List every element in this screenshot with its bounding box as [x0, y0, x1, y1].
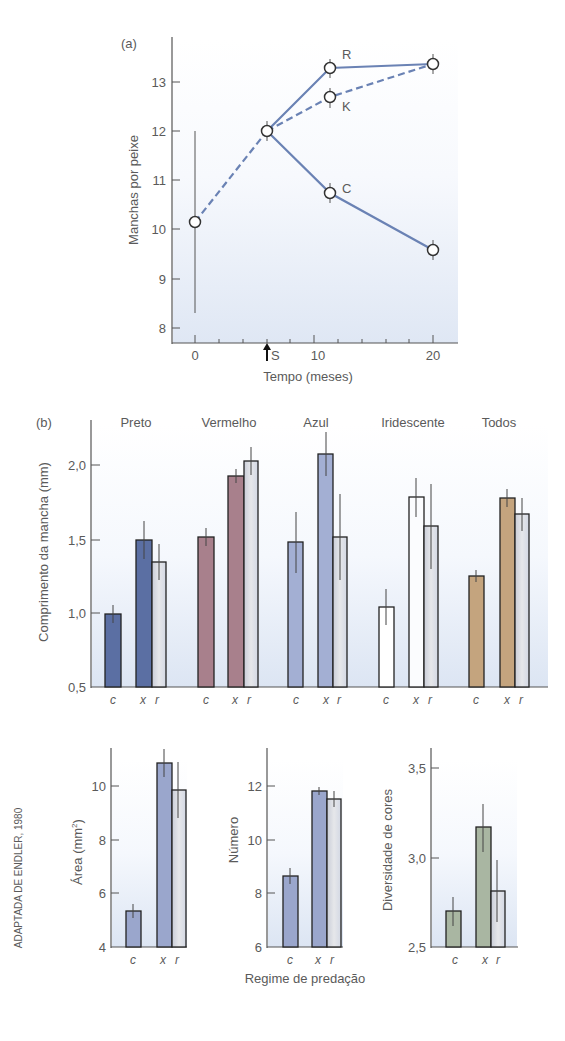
panel-a-xtick-0: 0 — [191, 348, 198, 363]
figure-canvas: (a) 13 12 11 10 9 8 — [0, 0, 565, 1041]
numero-ytick-8: 8 — [255, 886, 262, 901]
diversidade-ytick-3-5: 3,5 — [408, 761, 426, 776]
cat-label-c: c — [130, 953, 136, 967]
area-y-label: Área (mm2) — [70, 819, 85, 885]
selection-arrow-icon — [263, 343, 271, 361]
panel-a-ytick-11: 11 — [153, 173, 167, 188]
cat-label-x: x — [322, 693, 330, 707]
cat-label-x: x — [314, 953, 322, 967]
panel-a-line-chart: (a) 13 12 11 10 9 8 — [121, 36, 458, 384]
panel-a-ytick-13: 13 — [152, 75, 166, 90]
numero-bar-r — [327, 799, 341, 947]
group-header-todos: Todos — [482, 415, 517, 430]
cat-label-r: r — [155, 693, 160, 707]
cat-label-x: x — [412, 693, 420, 707]
cat-label-c: c — [452, 953, 458, 967]
area-ytick-10: 10 — [92, 779, 106, 794]
area-ytick-8: 8 — [99, 833, 106, 848]
cat-label-c: c — [203, 693, 209, 707]
panel-a-ytick-8: 8 — [159, 321, 166, 336]
area-bar-r — [172, 790, 186, 947]
group-header-preto: Preto — [120, 415, 151, 430]
cat-label-x: x — [231, 693, 239, 707]
source-credit: ADAPTADA DE ENDLER, 1980 — [13, 807, 24, 948]
group-header-vermelho: Vermelho — [202, 415, 257, 430]
area-bar-chart: 10 8 6 4 Área (mm2) c x r — [70, 748, 187, 967]
diversidade-bar-r — [491, 891, 505, 947]
panel-a-xtick-10: 10 — [311, 348, 325, 363]
diversidade-ytick-3-0: 3,0 — [408, 851, 426, 866]
panel-b-ytick-0-5: 0,5 — [68, 680, 86, 695]
cat-label-r: r — [175, 953, 180, 967]
numero-bar-c — [283, 876, 298, 947]
group-header-iridescente: Iridescente — [381, 415, 445, 430]
cat-label-r: r — [496, 953, 501, 967]
cat-label-x: x — [481, 953, 489, 967]
numero-ytick-12: 12 — [248, 779, 262, 794]
numero-ytick-10: 10 — [248, 833, 262, 848]
cat-label-c: c — [110, 693, 116, 707]
panel-b-y-label: Comprimento da mancha (mm) — [36, 462, 51, 642]
panel-a-ytick-10: 10 — [152, 222, 166, 237]
cat-label-r: r — [519, 693, 524, 707]
cat-label-c: c — [293, 693, 299, 707]
panel-b-bar-chart: (b) 2,0 1,5 1,0 0,5 Comprimento da manch… — [36, 415, 548, 707]
panel-b-ytick-1-5: 1,5 — [68, 533, 86, 548]
numero-bar-chart: 12 10 8 6 Número c x r Regime de predaçã… — [226, 748, 365, 986]
cat-label-c: c — [287, 953, 293, 967]
cat-label-x: x — [159, 953, 167, 967]
cat-label-r: r — [247, 693, 252, 707]
panel-a-s-label: S — [271, 348, 280, 363]
panel-b-ytick-2-0: 2,0 — [68, 458, 86, 473]
panel-b-label: (b) — [36, 415, 52, 430]
area-bar-x — [157, 763, 172, 947]
cat-label-r: r — [330, 953, 335, 967]
area-ytick-4: 4 — [99, 940, 106, 955]
bottom-x-label: Regime de predação — [245, 971, 366, 986]
series-label-K: K — [342, 99, 351, 114]
group-header-azul: Azul — [303, 415, 328, 430]
area-ytick-6: 6 — [99, 886, 106, 901]
panel-a-y-label: Manchas por peixe — [126, 135, 141, 245]
panel-a-x-label: Tempo (meses) — [263, 369, 353, 384]
panel-a-background — [173, 40, 458, 343]
cat-label-c: c — [383, 693, 389, 707]
numero-y-label: Número — [226, 817, 241, 863]
diversidade-y-label: Diversidade de cores — [380, 788, 395, 911]
panel-a-ytick-12: 12 — [152, 124, 166, 139]
cat-label-r: r — [428, 693, 433, 707]
cat-label-x: x — [503, 693, 511, 707]
numero-ytick-6: 6 — [255, 940, 262, 955]
cat-label-r: r — [337, 693, 342, 707]
panel-b-ytick-1-0: 1,0 — [68, 606, 86, 621]
series-label-C: C — [342, 181, 351, 196]
panel-a-label: (a) — [121, 36, 137, 51]
cat-label-c: c — [473, 693, 479, 707]
series-label-R: R — [342, 47, 351, 62]
diversidade-ytick-2-5: 2,5 — [408, 940, 426, 955]
panel-a-ytick-9: 9 — [159, 272, 166, 287]
cat-label-x: x — [139, 693, 147, 707]
diversidade-bar-chart: 3,5 3,0 2,5 Diversidade de cores c x r — [380, 748, 518, 967]
panel-a-xtick-20: 20 — [426, 348, 440, 363]
numero-bar-x — [312, 791, 327, 947]
